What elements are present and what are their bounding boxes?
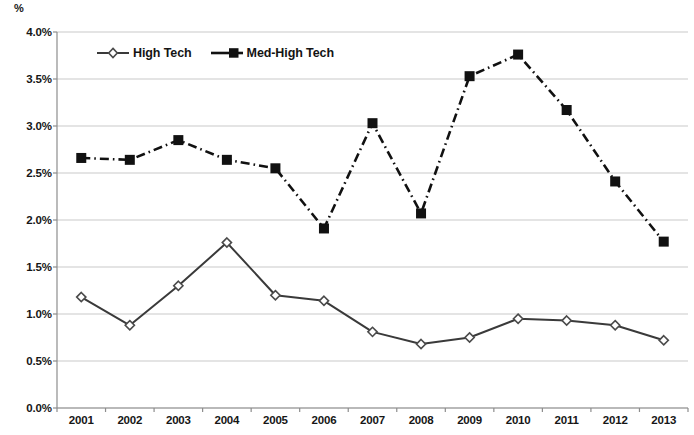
y-axis-tick-label: 3.5% [26, 73, 52, 85]
chart-legend: High Tech Med-High Tech [96, 46, 334, 60]
data-point-marker [368, 118, 378, 128]
data-point-marker [270, 163, 280, 173]
data-series-layer [76, 50, 668, 349]
y-axis-tick-label: 2.5% [26, 167, 52, 179]
y-axis-tick-label: 1.0% [26, 308, 52, 320]
x-axis-tick-label: 2013 [651, 414, 676, 426]
data-point-marker [416, 208, 426, 218]
y-axis-tick-label: 3.0% [26, 120, 52, 132]
y-axis-tick-label: 0.0% [26, 402, 52, 414]
data-point-marker [465, 333, 474, 342]
x-axis-tick-label: 2011 [555, 414, 579, 426]
x-axis-tick-label: 2001 [69, 414, 94, 426]
legend-label-high-tech: High Tech [133, 46, 192, 60]
legend-label-med-high-tech: Med-High Tech [247, 46, 334, 60]
legend-swatch-med-high-tech-icon [210, 46, 244, 60]
x-axis-tick-label: 2008 [409, 414, 434, 426]
y-axis-tick-labels: 0.0%0.5%1.0%1.5%2.0%2.5%3.0%3.5%4.0% [0, 0, 52, 435]
x-axis-tick-label: 2004 [214, 414, 239, 426]
x-axis-tick-label: 2006 [312, 414, 337, 426]
y-axis-tick-label: 1.5% [26, 261, 52, 273]
x-axis-tick-label: 2007 [360, 414, 385, 426]
x-axis-tick-label: 2002 [117, 414, 142, 426]
chart-container: % 0.0%0.5%1.0%1.5%2.0%2.5%3.0%3.5%4.0% 2… [0, 0, 694, 435]
y-axis-tick-label: 2.0% [26, 214, 52, 226]
data-point-marker [659, 237, 669, 247]
x-axis-tick-label: 2010 [506, 414, 531, 426]
y-axis-tick-label: 4.0% [26, 26, 52, 38]
series-line-med-high-tech [81, 55, 663, 242]
data-point-marker [611, 321, 620, 330]
x-axis-tick-label: 2009 [457, 414, 482, 426]
data-point-marker [76, 153, 86, 163]
legend-item-med-high-tech[interactable]: Med-High Tech [210, 46, 334, 60]
data-point-marker [77, 292, 86, 301]
data-point-marker [659, 336, 668, 345]
data-point-marker [222, 155, 232, 165]
data-point-marker [562, 316, 571, 325]
x-axis-tick-label: 2005 [263, 414, 288, 426]
data-point-marker [513, 50, 523, 60]
plot-area [0, 0, 694, 435]
legend-item-high-tech[interactable]: High Tech [96, 46, 192, 60]
data-point-marker [562, 105, 572, 115]
data-point-marker [125, 155, 135, 165]
y-axis-tick-label: 0.5% [26, 355, 52, 367]
data-point-marker [465, 71, 475, 81]
data-point-marker [173, 135, 183, 145]
legend-swatch-high-tech-icon [96, 46, 130, 60]
gridlines [57, 32, 688, 408]
data-point-marker [514, 314, 523, 323]
x-axis-tick-label: 2003 [166, 414, 191, 426]
data-point-marker [416, 339, 425, 348]
x-axis-tick-label: 2012 [603, 414, 628, 426]
data-point-marker [319, 223, 329, 233]
data-point-marker [610, 176, 620, 186]
